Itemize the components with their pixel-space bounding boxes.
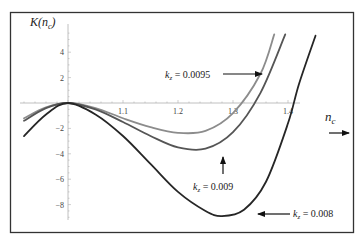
y-tick-label: −8: [55, 201, 64, 210]
y-ticks: 42−2−4−6−8: [55, 33, 71, 217]
y-axis-label: K(nc): [29, 15, 56, 31]
x-tick-label: 1.2: [173, 107, 183, 116]
x-tick-label: 1.1: [118, 107, 128, 116]
y-tick-label: −6: [55, 175, 64, 184]
y-axis: 42−2−4−6−8: [55, 24, 71, 220]
chart: 1.11.21.31.4 42−2−4−6−8 K(nc) nc kz = 0.…: [0, 0, 362, 241]
y-tick-label: 2: [60, 74, 64, 83]
annotation-kz-008: kz = 0.008: [293, 208, 333, 221]
annotation-kz-0095: kz = 0.0095: [165, 69, 210, 82]
y-tick-label: −2: [55, 124, 64, 133]
chart-frame: [11, 13, 354, 233]
y-tick-label: 4: [60, 48, 64, 57]
x-axis: 1.11.21.31.4: [20, 100, 300, 116]
annotation-kz-009: kz = 0.009: [193, 181, 233, 194]
y-tick-label: −4: [55, 150, 64, 159]
x-axis-label: nc: [325, 109, 336, 126]
